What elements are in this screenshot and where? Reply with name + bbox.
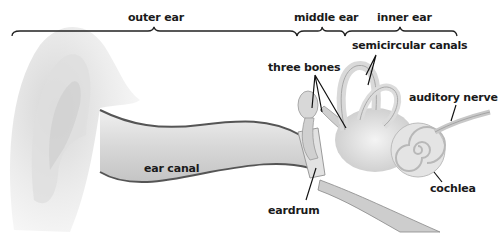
label-outer-ear: outer ear (128, 12, 184, 24)
label-three-bones: three bones (268, 62, 340, 74)
label-auditory-nerve: auditory nerve (409, 92, 498, 104)
label-semicircular-canals: semicircular canals (352, 40, 467, 52)
eustachian-tube-shape (318, 180, 440, 232)
auditory-nerve-shape (435, 112, 490, 132)
inner-ear-bracket (345, 27, 457, 36)
label-eardrum: eardrum (268, 205, 320, 217)
cochlea-leader (434, 172, 442, 182)
label-inner-ear: inner ear (377, 12, 432, 24)
middle-ear-bracket (297, 27, 345, 36)
label-middle-ear: middle ear (294, 12, 358, 24)
ear-canal-shape (100, 110, 310, 182)
label-ear-canal: ear canal (144, 163, 199, 175)
auditory-nerve-leader (451, 105, 456, 121)
label-cochlea: cochlea (430, 183, 476, 195)
